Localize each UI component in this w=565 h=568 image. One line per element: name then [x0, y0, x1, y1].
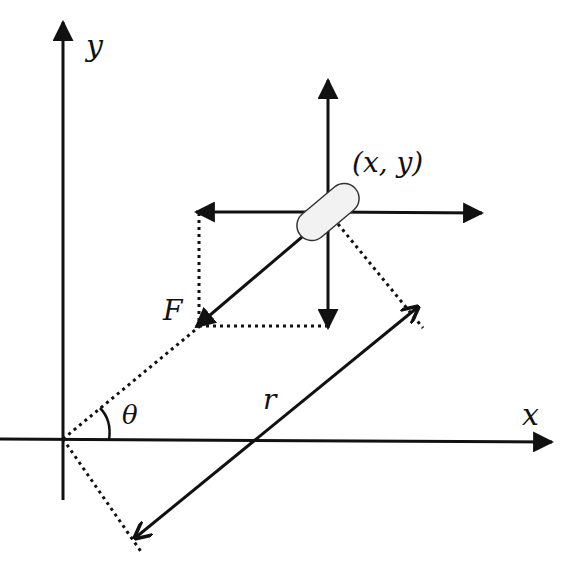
radius-arrow [135, 307, 418, 538]
x-axis [0, 439, 552, 442]
position-label: (x, y) [352, 146, 423, 179]
force-diagram: y x F (x, y) r θ [0, 0, 565, 568]
force-label: F [162, 294, 184, 327]
origin-perpendicular-dashed [63, 439, 142, 553]
radius-label: r [263, 383, 278, 416]
force-vector [196, 226, 315, 327]
angle-arc [100, 408, 110, 440]
angle-label: θ [122, 400, 138, 430]
x-axis-label: x [522, 397, 539, 432]
y-axis-label: y [84, 28, 104, 63]
